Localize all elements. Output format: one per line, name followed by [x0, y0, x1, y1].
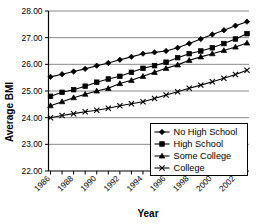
square-marker [118, 74, 123, 79]
legend-label: Some College [174, 151, 232, 161]
y-axis-title: Average BMI [4, 82, 15, 142]
legend-label: High School [174, 139, 224, 149]
square-marker [129, 70, 134, 75]
square-marker [48, 94, 53, 99]
square-marker [71, 87, 76, 92]
y-tick-label: 28.00 [22, 6, 43, 16]
y-tick-label: 26.00 [22, 59, 43, 69]
square-marker [187, 51, 192, 56]
chart-canvas: 28.0027.0026.0025.0024.0023.0022.00 1986… [0, 0, 257, 224]
square-marker [210, 46, 215, 51]
square-marker [60, 90, 65, 95]
x-axis-title: Year [137, 208, 158, 219]
y-tick-label: 27.00 [22, 33, 43, 43]
y-tick-label: 25.00 [22, 86, 43, 96]
y-tick-label: 24.00 [22, 113, 43, 123]
square-marker [152, 63, 157, 68]
square-marker [198, 49, 203, 54]
square-marker [141, 66, 146, 71]
bmi-line-chart: 28.0027.0026.0025.0024.0023.0022.00 1986… [0, 0, 257, 224]
legend-label: College [174, 163, 205, 173]
square-marker [233, 37, 238, 42]
square-marker [245, 31, 250, 36]
chart-legend: No High SchoolHigh SchoolSome CollegeCol… [151, 124, 248, 176]
square-marker [175, 55, 180, 60]
square-marker [83, 84, 88, 89]
legend-label: No High School [174, 127, 238, 137]
square-marker [106, 77, 111, 82]
square-marker [160, 142, 165, 147]
square-marker [94, 80, 99, 85]
square-marker [222, 41, 227, 46]
square-marker [164, 60, 169, 65]
y-tick-label: 22.00 [22, 166, 43, 176]
y-tick-label: 23.00 [22, 139, 43, 149]
